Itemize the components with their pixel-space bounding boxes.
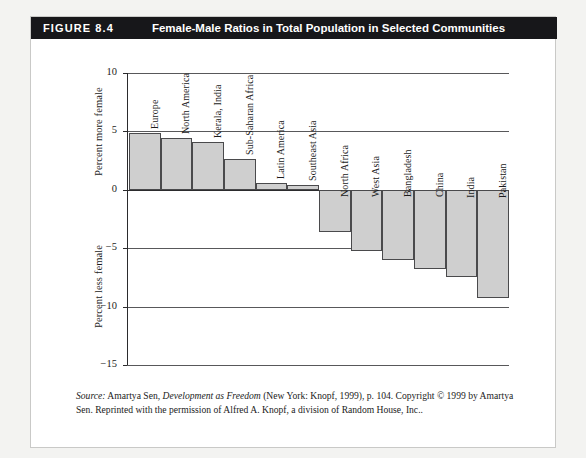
figure-number-label: FIGURE 8.4 [31, 22, 114, 34]
bar [161, 138, 193, 189]
bar-category-label: China [434, 173, 445, 197]
bar [477, 190, 509, 299]
source-book-title: Development as Freedom [163, 390, 261, 401]
bar-category-label: Sub-Saharan Africa [244, 75, 255, 155]
source-caption: Source: Amartya Sen, Development as Free… [76, 389, 521, 417]
figure-title: Female-Male Ratios in Total Population i… [152, 22, 505, 34]
chart-plot-area: 1050−5−10−15 EuropeNorth AmericaKerala, … [31, 39, 557, 389]
bar [382, 190, 414, 260]
bar-category-label: North America [180, 73, 191, 134]
bar [446, 190, 478, 278]
bar [351, 190, 383, 251]
bar [192, 142, 224, 190]
bar [224, 159, 256, 189]
bar-category-label: Pakistan [497, 163, 508, 198]
bar-category-label: Latin America [275, 120, 286, 179]
bars-group: EuropeNorth AmericaKerala, IndiaSub-Saha… [31, 39, 557, 389]
bar [414, 190, 446, 269]
bar [287, 185, 319, 190]
bar-category-label: India [465, 177, 476, 198]
bar-category-label: Southeast Asia [307, 121, 318, 182]
source-prefix: Source: [76, 390, 105, 401]
bar [256, 183, 288, 190]
y-axis-title-upper: Percent more female [93, 87, 104, 176]
figure-card: FIGURE 8.4 Female-Male Ratios in Total P… [30, 16, 556, 448]
source-author: Amartya Sen, [105, 390, 162, 401]
bar-category-label: Bangladesh [402, 150, 413, 198]
figure-header-bar: FIGURE 8.4 Female-Male Ratios in Total P… [31, 17, 557, 39]
y-axis-title-lower: Percent less female [93, 245, 104, 328]
bar [129, 133, 161, 190]
bar-category-label: Europe [149, 99, 160, 128]
bar-category-label: West Asia [370, 156, 381, 197]
bar-category-label: Kerala, India [212, 84, 223, 138]
bar-category-label: North Africa [339, 145, 350, 197]
